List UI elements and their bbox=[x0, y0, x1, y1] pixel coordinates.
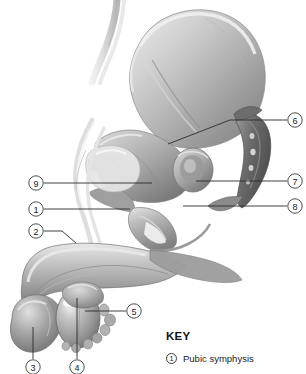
figure-page: 9 1 2 3 4 5 6 7 bbox=[0, 0, 306, 374]
callout-6-number: 6 bbox=[292, 116, 297, 126]
callout-5[interactable]: 5 bbox=[127, 304, 141, 318]
callout-8[interactable]: 8 bbox=[288, 199, 302, 213]
key-list: 1 Pubic symphysis bbox=[166, 353, 302, 365]
callout-3-number: 3 bbox=[30, 363, 35, 373]
callout-8-number: 8 bbox=[292, 202, 297, 212]
anatomy-illustration: 9 1 2 3 4 5 6 7 bbox=[0, 0, 306, 374]
key-title: KEY bbox=[166, 330, 302, 342]
leader-line-2 bbox=[44, 231, 76, 243]
callout-1[interactable]: 1 bbox=[29, 202, 43, 216]
callout-4[interactable]: 4 bbox=[70, 360, 84, 374]
key-item-1: 1 Pubic symphysis bbox=[166, 353, 302, 365]
callout-2-number: 2 bbox=[33, 227, 38, 237]
callout-9[interactable]: 9 bbox=[29, 176, 43, 190]
callout-2[interactable]: 2 bbox=[29, 224, 43, 238]
ureter-tube bbox=[92, 0, 124, 83]
key-legend: KEY 1 Pubic symphysis bbox=[166, 330, 302, 369]
callout-4-number: 4 bbox=[74, 363, 79, 373]
prostate-gland bbox=[62, 282, 103, 308]
ischium-arch bbox=[128, 207, 210, 252]
key-item-1-label: Pubic symphysis bbox=[183, 353, 302, 365]
callout-6[interactable]: 6 bbox=[288, 113, 302, 127]
callout-5-number: 5 bbox=[131, 307, 136, 317]
callout-3[interactable]: 3 bbox=[26, 360, 40, 374]
glans-penis bbox=[10, 295, 61, 353]
key-item-1-number: 1 bbox=[166, 353, 177, 364]
callout-1-number: 1 bbox=[33, 205, 38, 215]
callout-9-number: 9 bbox=[33, 179, 38, 189]
callout-7-number: 7 bbox=[292, 177, 297, 187]
callout-7[interactable]: 7 bbox=[288, 174, 302, 188]
acetabulum bbox=[173, 148, 213, 192]
